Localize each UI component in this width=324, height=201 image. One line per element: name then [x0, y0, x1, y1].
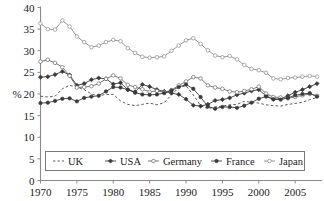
- line-chart: %0510152025303540 1970197519801985199019…: [0, 0, 324, 201]
- data-point: [192, 36, 196, 40]
- x-tick-label: 2000: [248, 186, 271, 198]
- data-point: [250, 87, 254, 91]
- data-point: [315, 95, 318, 98]
- data-point: [315, 82, 319, 86]
- data-point: [155, 93, 158, 96]
- data-point: [235, 90, 239, 94]
- data-point: [61, 65, 65, 69]
- data-point: [177, 85, 180, 88]
- y-tick-label: 30: [24, 45, 36, 57]
- data-point: [126, 46, 130, 50]
- data-point: [170, 89, 173, 92]
- data-point: [46, 101, 49, 104]
- legend-label: Japan: [279, 156, 304, 167]
- x-tick-label: 1980: [102, 186, 125, 198]
- data-point: [199, 95, 202, 98]
- data-point: [133, 91, 136, 94]
- data-point: [97, 94, 100, 97]
- data-point: [148, 56, 152, 60]
- y-tick-label: 15: [24, 110, 36, 122]
- data-point: [199, 77, 203, 81]
- y-axis: %0510152025303540: [12, 2, 40, 187]
- chart-legend: UKUSAGermanyFranceJapan: [46, 152, 305, 171]
- data-point: [90, 45, 94, 49]
- legend-label: Germany: [163, 156, 203, 167]
- data-point: [242, 89, 246, 93]
- data-point: [46, 75, 50, 79]
- data-point: [39, 22, 43, 26]
- data-point: [112, 85, 115, 88]
- data-point: [213, 107, 216, 110]
- data-point: [97, 44, 101, 48]
- data-point: [213, 54, 217, 58]
- data-point: [308, 74, 312, 78]
- x-tick-label: 1990: [175, 186, 198, 198]
- data-point: [221, 105, 224, 108]
- data-point: [39, 60, 43, 64]
- data-point: [250, 101, 253, 104]
- data-point: [235, 58, 239, 62]
- data-point: [293, 76, 297, 80]
- data-point: [228, 54, 232, 58]
- data-point: [279, 77, 283, 81]
- data-point: [60, 69, 64, 73]
- data-point: [126, 83, 130, 87]
- chart-canvas: %0510152025303540 1970197519801985199019…: [0, 0, 324, 201]
- data-point: [104, 90, 107, 93]
- data-point: [206, 49, 210, 53]
- data-point: [315, 75, 319, 79]
- x-axis: 19701975198019851990199520002005: [30, 181, 323, 198]
- data-point: [90, 84, 94, 88]
- data-point: [53, 28, 57, 32]
- series-line: [41, 20, 318, 79]
- data-point: [242, 63, 246, 67]
- data-point: [279, 98, 282, 101]
- data-point: [104, 77, 108, 81]
- data-point: [141, 87, 145, 91]
- data-point: [68, 97, 71, 100]
- y-tick-label: 20: [24, 88, 36, 100]
- data-point: [133, 85, 137, 89]
- data-point: [286, 96, 289, 99]
- series-layer: [38, 19, 319, 111]
- data-point: [97, 82, 101, 86]
- data-point: [104, 40, 108, 44]
- data-point: [250, 67, 254, 71]
- data-point: [162, 55, 166, 59]
- data-point: [192, 87, 195, 90]
- y-axis-title: %: [12, 88, 21, 100]
- legend-label: USA: [120, 156, 141, 167]
- data-point: [53, 72, 57, 76]
- data-point: [68, 74, 72, 78]
- data-point: [243, 104, 246, 107]
- data-point: [184, 39, 188, 43]
- data-point: [68, 25, 72, 29]
- y-tick-label: 35: [24, 23, 36, 35]
- data-point: [89, 78, 93, 82]
- data-point: [61, 19, 65, 23]
- data-point: [155, 89, 159, 93]
- data-point: [264, 95, 267, 98]
- y-tick-label: 40: [24, 2, 36, 14]
- data-point: [300, 88, 304, 92]
- data-point: [228, 90, 232, 94]
- data-point: [286, 76, 290, 80]
- data-point: [308, 91, 311, 94]
- y-tick-label: 10: [24, 131, 36, 143]
- data-point: [133, 51, 137, 55]
- y-tick-label: 25: [24, 66, 36, 78]
- x-tick-label: 1985: [139, 186, 162, 198]
- data-point: [75, 35, 79, 39]
- x-tick-label: 1970: [30, 186, 53, 198]
- data-point: [148, 93, 151, 96]
- data-point: [293, 94, 296, 97]
- data-point: [53, 61, 57, 65]
- x-tick-label: 1975: [66, 186, 89, 198]
- data-point: [221, 87, 225, 91]
- y-tick-label: 5: [29, 153, 35, 165]
- data-point: [257, 85, 261, 89]
- data-point: [141, 93, 144, 96]
- data-point: [82, 40, 86, 44]
- data-point: [301, 75, 305, 79]
- data-point: [213, 86, 217, 90]
